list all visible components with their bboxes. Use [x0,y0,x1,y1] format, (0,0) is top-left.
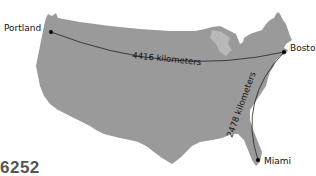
total-distance-caption: 6252 [0,160,40,176]
portland-label: Portland [4,23,41,33]
us-map: Portland Bosto Miami 4416 kilometers 247… [0,0,316,176]
boston-label: Bosto [290,43,316,53]
miami-marker [256,158,260,162]
boston-marker [282,50,286,54]
portland-marker [49,30,53,34]
miami-label: Miami [264,156,291,166]
